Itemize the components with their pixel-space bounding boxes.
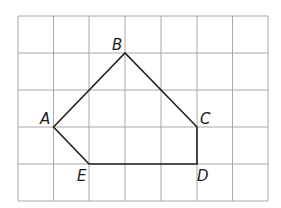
vertex-label-e: E [77,167,87,185]
vertex-label-a: A [39,110,50,128]
grid-diagram: A B C D E [0,0,281,208]
vertex-label-c: C [200,110,211,128]
vertex-label-d: D [197,167,209,185]
grid [18,16,268,201]
vertex-label-b: B [112,36,122,54]
